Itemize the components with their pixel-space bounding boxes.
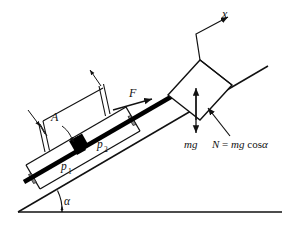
physics-diagram: x F A p 1 p 2 mg N = mg cosα α (0, 0, 290, 227)
label-axis-x: x (221, 7, 228, 21)
block-mass (168, 60, 232, 120)
label-N-equals: = (219, 138, 231, 150)
label-N-alpha: α (262, 138, 268, 150)
label-weight-mg: mg (184, 138, 198, 150)
label-angle-alpha: α (64, 195, 71, 207)
label-normal-force: N = mg cosα (211, 138, 268, 150)
label-force-F: F (128, 86, 137, 100)
force-arrow-F (113, 99, 152, 110)
label-p2-symbol: p (96, 138, 103, 151)
label-pressure-2: p 2 (96, 138, 108, 154)
piston-rod (24, 87, 188, 182)
label-area-A: A (50, 110, 59, 124)
diagram-canvas: x F A p 1 p 2 mg N = mg cosα α (0, 0, 290, 227)
alpha-angle-arc (58, 191, 63, 213)
label-p2-subscript: 2 (104, 145, 108, 154)
label-p1-subscript: 1 (68, 167, 72, 176)
svg-text:N = mg cosα: N = mg cosα (211, 138, 268, 150)
label-N-cos: cos (245, 138, 262, 150)
normal-force-arrow (208, 108, 230, 136)
label-p1-symbol: p (60, 160, 67, 173)
label-N-mg: mg (231, 138, 245, 150)
